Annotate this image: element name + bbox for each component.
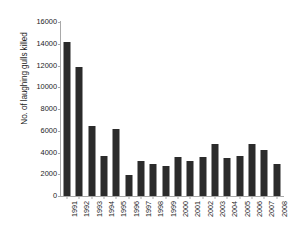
- bar-group: 2005: [234, 22, 246, 196]
- x-axis-tick-label: 1999: [169, 201, 176, 217]
- x-axis-tick-mark: [276, 196, 277, 199]
- bar-group: 1995: [110, 22, 122, 196]
- x-axis-tick-mark: [165, 196, 166, 199]
- bar-group: 2004: [221, 22, 233, 196]
- x-axis-tick-label: 1992: [83, 201, 90, 217]
- bar-group: 1996: [123, 22, 135, 196]
- bar-group: 1991: [61, 22, 73, 196]
- x-axis-tick-mark: [190, 196, 191, 199]
- x-axis-tick-mark: [91, 196, 92, 199]
- x-axis-tick-label: 2005: [243, 201, 250, 217]
- plot-area: 0200040006000800010000120001400016000 19…: [61, 22, 283, 196]
- bar-series: 1991199219931994199519961997199819992000…: [61, 22, 283, 196]
- x-axis-line: [60, 196, 284, 197]
- bar-chart: No. of laughing gulls killed 02000400060…: [0, 0, 294, 236]
- y-axis-tick-label: 2000: [41, 171, 57, 178]
- bar: [138, 161, 145, 196]
- y-axis-tick-label: 16000: [36, 18, 57, 25]
- x-axis-tick-label: 2004: [231, 201, 238, 217]
- x-axis-tick-mark: [104, 196, 105, 199]
- bar-group: 2007: [258, 22, 270, 196]
- bar: [236, 156, 243, 196]
- bar: [273, 164, 280, 196]
- bar: [224, 158, 231, 196]
- bar-group: 2001: [184, 22, 196, 196]
- x-axis-tick-label: 2008: [280, 201, 287, 217]
- bar-group: 1999: [160, 22, 172, 196]
- y-axis-tick-label: 4000: [41, 149, 57, 156]
- y-axis-tick-label: 8000: [41, 105, 57, 112]
- bar: [175, 157, 182, 196]
- x-axis-tick-mark: [153, 196, 154, 199]
- y-axis-tick-mark: [58, 196, 61, 197]
- x-axis-tick-label: 1997: [145, 201, 152, 217]
- x-axis-tick-mark: [79, 196, 80, 199]
- y-axis-title: No. of laughing gulls killed: [20, 0, 29, 159]
- x-axis-tick-label: 1996: [132, 201, 139, 217]
- bar-group: 1993: [86, 22, 98, 196]
- x-axis-tick-label: 2002: [206, 201, 213, 217]
- x-axis-tick-label: 1995: [120, 201, 127, 217]
- x-axis-tick-mark: [264, 196, 265, 199]
- bar: [125, 175, 132, 196]
- bar-group: 2008: [271, 22, 283, 196]
- bar: [101, 156, 108, 196]
- x-axis-tick-label: 2001: [194, 201, 201, 217]
- bar: [187, 161, 194, 196]
- y-axis-tick-label: 12000: [36, 62, 57, 69]
- x-axis-tick-mark: [116, 196, 117, 199]
- bar: [150, 164, 157, 196]
- bar: [76, 67, 83, 196]
- bar: [113, 129, 120, 196]
- bar-group: 1998: [147, 22, 159, 196]
- x-axis-tick-mark: [202, 196, 203, 199]
- x-axis-tick-label: 1994: [108, 201, 115, 217]
- x-axis-tick-mark: [215, 196, 216, 199]
- bar-group: 2002: [197, 22, 209, 196]
- y-axis-tick-label: 6000: [41, 127, 57, 134]
- y-axis-tick-label: 14000: [36, 40, 57, 47]
- bar-group: 2003: [209, 22, 221, 196]
- x-axis-tick-label: 2003: [219, 201, 226, 217]
- x-axis-tick-label: 2000: [182, 201, 189, 217]
- bar-group: 1994: [98, 22, 110, 196]
- bar: [199, 157, 206, 196]
- y-axis-tick-label: 10000: [36, 84, 57, 91]
- x-axis-tick-mark: [141, 196, 142, 199]
- bar: [88, 126, 95, 196]
- bar: [212, 144, 219, 196]
- bar: [64, 42, 71, 196]
- x-axis-tick-mark: [227, 196, 228, 199]
- x-axis-tick-mark: [67, 196, 68, 199]
- x-axis-tick-mark: [239, 196, 240, 199]
- y-axis-tick-label: 0: [53, 192, 57, 199]
- x-axis-tick-label: 2006: [256, 201, 263, 217]
- x-axis-tick-label: 1993: [95, 201, 102, 217]
- x-axis-tick-label: 2007: [268, 201, 275, 217]
- bar-group: 2006: [246, 22, 258, 196]
- x-axis-tick-mark: [252, 196, 253, 199]
- bar-group: 2000: [172, 22, 184, 196]
- bar: [249, 144, 256, 196]
- x-axis-tick-mark: [178, 196, 179, 199]
- x-axis-tick-mark: [128, 196, 129, 199]
- bar-group: 1997: [135, 22, 147, 196]
- bar: [261, 150, 268, 196]
- x-axis-tick-label: 1991: [71, 201, 78, 217]
- bar-group: 1992: [73, 22, 85, 196]
- bar: [162, 166, 169, 196]
- x-axis-tick-label: 1998: [157, 201, 164, 217]
